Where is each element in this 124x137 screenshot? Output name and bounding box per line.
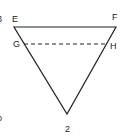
figure-number: 2: [65, 125, 70, 134]
point-label-h: H: [110, 42, 117, 51]
vertex-label-f: F: [112, 13, 118, 22]
triangle-outline: [14, 27, 116, 114]
point-label-g: G: [13, 40, 20, 49]
cropped-fragment-top: 3: [0, 15, 2, 24]
cropped-fragment-bottom: b: [0, 114, 2, 123]
vertex-label-e: E: [12, 15, 18, 24]
triangle-diagram: [0, 0, 124, 137]
triangle-figure: 3 b E F G H 2: [0, 0, 124, 137]
